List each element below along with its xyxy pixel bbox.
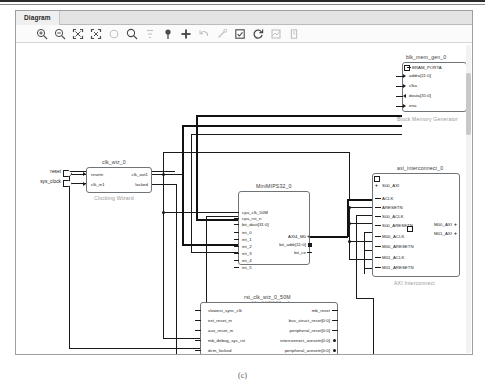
canvas-scroll-thumb[interactable] <box>466 73 471 135</box>
optimize-icon <box>270 28 282 40</box>
pin-stub <box>234 232 239 233</box>
wire <box>176 184 177 354</box>
external-port-sys-clock[interactable] <box>63 180 72 187</box>
hierarchy-icon <box>144 28 156 40</box>
add-ip-icon[interactable] <box>180 28 192 40</box>
pin-stub <box>332 320 338 321</box>
pin-aclk: ACLK <box>382 196 393 201</box>
pin-stub <box>234 267 239 268</box>
pin-stub <box>234 212 239 213</box>
pin-interconnect-aresetn: interconnect_aresetn[0:0] <box>248 338 330 343</box>
pin-stub <box>234 260 239 261</box>
wire <box>69 174 70 348</box>
pin-addra: addra[11:0] <box>409 73 431 78</box>
pin-int-2: int_2 <box>242 244 252 249</box>
pin-stub <box>152 184 156 185</box>
pin-arrow-addra <box>403 74 406 78</box>
connect-icon <box>216 28 228 40</box>
pin-stub <box>234 218 239 219</box>
blk-mem-gen-caption: Block Memory Generator <box>397 116 458 122</box>
diagram-toolbar <box>16 25 472 43</box>
pin-ext-reset-in: ext_reset_in <box>208 318 232 323</box>
wire <box>349 223 372 224</box>
wire-bus <box>347 199 372 201</box>
wire <box>349 241 372 242</box>
validate-icon[interactable] <box>234 28 246 40</box>
pin-peripheral-reset: peripheral_reset[0:0] <box>256 328 330 333</box>
diagram-canvas[interactable]: reset sys_clock blk_mem_gen_0 BRAM_PORTA… <box>16 44 472 354</box>
wire-bus <box>182 125 402 127</box>
m00-axi-expand-icon[interactable]: + <box>454 222 457 227</box>
zoom-in-icon[interactable] <box>36 28 48 40</box>
rst-title: rst_clk_wiz_0_50M <box>244 294 291 300</box>
pin-mb-debug-sys-rst: mb_debug_sys_rst <box>208 338 245 343</box>
pin-m00-aclk: M00_ACLK <box>382 234 404 239</box>
pin-icon[interactable] <box>162 28 174 40</box>
pin-int-4: int_4 <box>242 258 252 263</box>
pin-stub <box>195 310 201 311</box>
pin-int-1: int_1 <box>242 237 252 242</box>
wire <box>356 298 374 299</box>
pin-arrow-clk-in1 <box>83 182 86 186</box>
pin-stub <box>234 224 239 225</box>
tab-diagram[interactable]: Diagram <box>16 11 60 25</box>
pin-stub <box>195 350 201 351</box>
wire <box>349 241 350 259</box>
undo-icon <box>198 28 210 40</box>
pin-bus-struct-reset: bus_struct_reset[0:0] <box>256 318 330 323</box>
axi-crossbar-icon <box>407 226 413 232</box>
axi4-m0-expand-icon[interactable]: + <box>307 234 310 239</box>
pin-stub <box>307 252 312 253</box>
search-icon[interactable] <box>126 28 138 40</box>
pin-stub <box>375 216 381 217</box>
pin-mb-reset: mb_reset <box>256 308 330 313</box>
wire <box>69 348 200 349</box>
wire <box>163 152 164 174</box>
pin-int-0: int_0 <box>242 230 252 235</box>
wire-bus <box>182 125 184 245</box>
pin-arrow-ena <box>403 104 406 108</box>
pin-aresetn: ARESETN <box>382 205 403 210</box>
m01-axi-expand-icon[interactable]: + <box>454 231 457 236</box>
wire <box>349 223 350 241</box>
junction-dot <box>333 339 336 342</box>
page-rule-top-thin <box>0 4 485 5</box>
pin-stub <box>332 330 338 331</box>
block-clk-wiz-0[interactable] <box>86 167 152 193</box>
wire <box>163 212 238 213</box>
page-rule-top <box>0 0 485 2</box>
wire <box>152 174 184 175</box>
pin-locked: locked <box>112 182 148 187</box>
wire <box>349 207 372 208</box>
zoom-out-icon[interactable] <box>54 28 66 40</box>
pin-arrow-clka <box>403 84 406 88</box>
pin-aux-reset-in: aux_reset_in <box>208 328 233 333</box>
pin-stub <box>195 340 201 341</box>
zoom-fit-icon[interactable] <box>72 28 84 40</box>
refresh-icon[interactable] <box>252 28 264 40</box>
pin-douta: douta[31:0] <box>409 93 431 98</box>
pin-m01-axi: M01_AXI <box>414 231 452 236</box>
pin-m00-aresetn: M00_ARESETN <box>382 244 414 249</box>
s00-axi-expand-icon[interactable]: + <box>375 183 378 188</box>
wire-bus <box>196 115 198 220</box>
diagram-panel: Diagram <box>15 10 473 355</box>
pin-clk-in1: clk_in1 <box>91 182 105 187</box>
canvas-vertical-scrollbar[interactable] <box>466 45 471 353</box>
wire <box>356 215 357 299</box>
wire <box>163 174 164 212</box>
pin-bit-ce: bit_ce <box>264 250 306 255</box>
junction-dot <box>333 349 336 352</box>
pin-stub <box>195 320 201 321</box>
pin-cpu-clk-50m: cpu_clk_50M <box>242 210 268 215</box>
axi-interconnect-title: axi_interconnect_0 <box>397 165 443 171</box>
zoom-area-icon[interactable] <box>90 28 102 40</box>
wire <box>373 298 374 354</box>
bram-porta-interface-icon <box>404 65 410 71</box>
external-port-reset-label: reset <box>20 169 61 174</box>
clk-wiz-title: clk_wiz_0 <box>102 159 126 165</box>
wire <box>163 212 164 338</box>
bit-addr-bus-marker <box>308 243 312 247</box>
clk-wiz-caption: Clocking Wizard <box>94 195 134 201</box>
pin-axi4-m0: AXI4_M0 <box>264 234 306 239</box>
